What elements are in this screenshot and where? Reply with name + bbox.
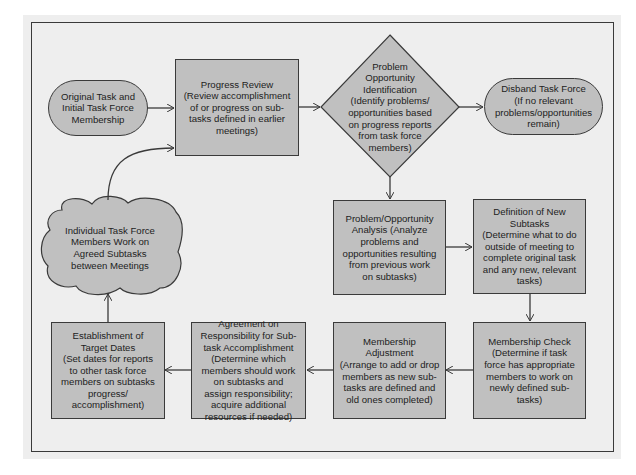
node-label: Individual Task Force Members Work on Ag… [65,225,155,271]
node-original-task: Original Task and Initial Task Force Mem… [48,80,148,136]
node-label: Definition of New Subtasks (Determine wh… [482,206,576,287]
node-establishment-of-target-dates: Establishment of Target Dates (Set dates… [51,322,165,419]
node-individual-work: Individual Task Force Members Work on Ag… [50,218,170,278]
node-label: Original Task and Initial Task Force Mem… [61,91,135,126]
node-membership-adjustment: Membership Adjustment (Arrange to add or… [333,322,446,419]
node-progress-review: Progress Review (Review accomplishment o… [175,59,299,156]
node-label: Problem Opportunity Identification (Iden… [348,61,432,154]
node-label: Establishment of Target Dates (Set dates… [61,330,155,411]
node-label: Membership Check (Determine if task forc… [484,336,575,406]
node-problem-analysis: Problem/Opportunity Analysis (Analyze pr… [333,200,446,295]
node-label: Membership Adjustment (Arrange to add or… [340,336,440,406]
node-problem-identification: Problem Opportunity Identification (Iden… [335,56,445,158]
node-label: Disband Task Force (If no relevant probl… [495,83,592,129]
node-agreement-on-responsibility: Agreement on Responsibility for Sub- tas… [191,322,306,419]
node-label: Problem/Opportunity Analysis (Analyze pr… [343,213,437,283]
node-label: Agreement on Responsibility for Sub- tas… [201,318,297,422]
node-membership-check: Membership Check (Determine if task forc… [473,322,586,419]
node-definition-of-new-subtasks: Definition of New Subtasks (Determine wh… [473,199,586,294]
node-disband-task-force: Disband Task Force (If no relevant probl… [484,78,603,135]
node-label: Progress Review (Review accomplishment o… [184,79,291,137]
